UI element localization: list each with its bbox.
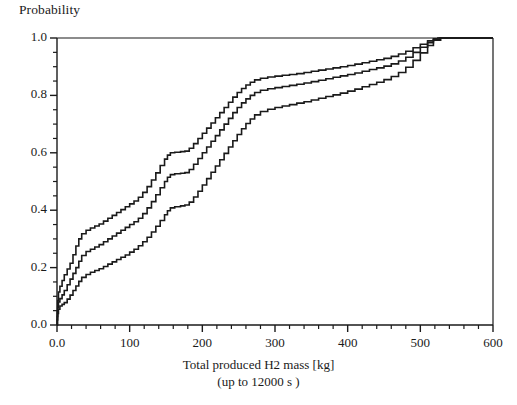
x-axis-sublabel: (up to 12000 s ) (0, 374, 517, 390)
y-tick-label: 0.6 (31, 144, 47, 160)
y-tick-label: 1.0 (31, 29, 47, 45)
x-tick-label: 600 (471, 335, 515, 351)
series-lower-bound (57, 38, 493, 325)
x-tick-label: 100 (108, 335, 152, 351)
y-tick-label: 0.2 (31, 259, 47, 275)
series-upper-bound (57, 38, 493, 325)
x-axis-label: Total produced H2 mass [kg] (0, 357, 517, 373)
x-tick-label: 400 (326, 335, 370, 351)
y-tick-label: 0.0 (31, 316, 47, 332)
chart-figure: Probability Total produced H2 mass [kg] … (0, 0, 517, 405)
x-tick-label: 0.0 (35, 335, 79, 351)
y-tick-label: 0.8 (31, 86, 47, 102)
x-tick-label: 500 (398, 335, 442, 351)
y-tick-label: 0.4 (31, 201, 47, 217)
x-tick-label: 300 (253, 335, 297, 351)
series-median (57, 38, 493, 325)
x-tick-label: 200 (180, 335, 224, 351)
